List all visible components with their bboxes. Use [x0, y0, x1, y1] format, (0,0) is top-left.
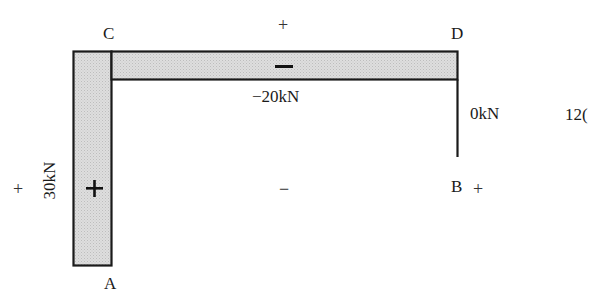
node-label-b: B [451, 178, 462, 195]
sign-top-outer: + [278, 16, 288, 34]
node-label-d: D [451, 25, 463, 42]
column-ac-force-label: 30kN [41, 162, 58, 200]
sign-right-near-b: + [473, 180, 483, 198]
sign-left-outer: + [13, 180, 23, 198]
sign-inner: − [279, 180, 289, 198]
node-label-a: A [104, 275, 116, 292]
axial-force-diagram-canvas [0, 0, 590, 296]
node-label-c: C [103, 25, 114, 42]
beam-force-label: −20kN [252, 88, 299, 105]
cropped-label: 12( [565, 106, 588, 123]
column-ac-diagram [74, 52, 112, 266]
minus-sign-beam [275, 65, 293, 68]
column-db-force-label: 0kN [470, 105, 499, 122]
